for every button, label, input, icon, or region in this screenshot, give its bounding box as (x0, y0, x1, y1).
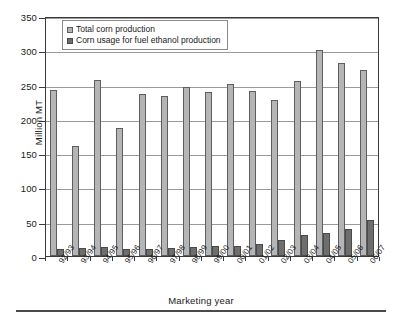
legend-label-series2: Corn usage for fuel ethanol production (76, 35, 221, 46)
bar-group (90, 18, 112, 256)
bar-group (356, 18, 378, 256)
y-tick-mark (39, 121, 45, 122)
bar-group (245, 18, 267, 256)
bar-series1 (183, 87, 190, 256)
y-tick-label: 100 (21, 183, 37, 194)
y-tick-mark (39, 189, 45, 190)
bar-group (179, 18, 201, 256)
bar-series1 (249, 91, 256, 256)
bottom-divider (16, 310, 386, 312)
y-tick-mark (39, 155, 45, 156)
bar-series1 (360, 70, 367, 257)
legend-item-total-corn-production: Total corn production (67, 24, 221, 35)
y-tick-label: 0 (32, 252, 37, 263)
bar-series1 (227, 84, 234, 256)
bar-series-container (46, 18, 378, 256)
y-tick-mark (39, 224, 45, 225)
bar-series1 (161, 96, 168, 256)
legend-item-corn-usage-fuel-ethanol: Corn usage for fuel ethanol production (67, 35, 221, 46)
x-axis-title: Marketing year (0, 295, 402, 306)
bar-series1 (271, 100, 278, 256)
bar-group (312, 18, 334, 256)
bar-group (135, 18, 157, 256)
plot-area (45, 17, 379, 257)
bar-group (157, 18, 179, 256)
bar-series1 (338, 63, 345, 256)
bar-series1 (94, 80, 101, 256)
y-tick-label: 300 (21, 46, 37, 57)
bar-group (267, 18, 289, 256)
bar-series1 (205, 92, 212, 256)
y-tick-label: 50 (26, 217, 37, 228)
bar-series1 (139, 94, 146, 256)
bar-group (201, 18, 223, 256)
chart-figure: 350300250200150100500 Million MT 92/9393… (0, 0, 402, 318)
y-tick-mark (39, 87, 45, 88)
bar-series1 (50, 90, 57, 256)
bar-series1 (316, 50, 323, 256)
bar-group (68, 18, 90, 256)
y-tick-mark (39, 52, 45, 53)
legend-swatch-icon-series2 (67, 38, 73, 44)
bar-group (290, 18, 312, 256)
bar-group (112, 18, 134, 256)
legend-label-series1: Total corn production (76, 24, 155, 35)
bar-series1 (116, 128, 123, 256)
bar-series1 (294, 81, 301, 256)
bar-series1 (72, 146, 79, 256)
bar-group (334, 18, 356, 256)
x-axis-tick-labels: 92/9393/9494/9595/9696/9797/9898/9999/00… (45, 260, 379, 294)
y-tick-label: 350 (21, 12, 37, 23)
bar-group (46, 18, 68, 256)
y-tick-mark (39, 18, 45, 19)
legend-swatch-icon-series1 (67, 27, 73, 33)
chart-legend: Total corn production Corn usage for fue… (62, 20, 228, 50)
bar-group (223, 18, 245, 256)
y-axis-title: Million MT (33, 63, 44, 183)
